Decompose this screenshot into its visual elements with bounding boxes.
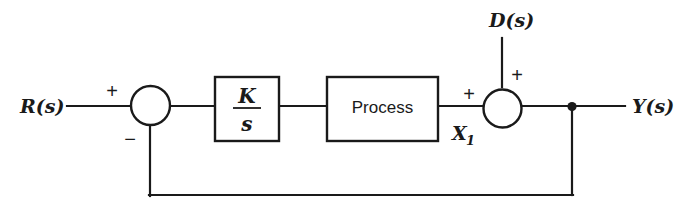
sign-error-junction-negative: − [124, 128, 136, 150]
summing-junction-disturbance [484, 90, 522, 128]
sign-error-junction-positive: + [106, 80, 118, 102]
label-disturbance-input: D(s) [488, 9, 534, 31]
sign-disturbance-junction-positive-left: + [463, 83, 475, 105]
feedback-takeoff-node [567, 102, 576, 111]
block-diagram-canvas: K s Process R(s) D(s) Y(s) X 1 + − + + [0, 0, 695, 209]
gain-denominator-label: s [240, 112, 252, 136]
sign-disturbance-junction-positive-top: + [511, 64, 523, 86]
label-output: Y(s) [632, 95, 674, 117]
gain-numerator-label: K [237, 84, 257, 108]
label-intermediate-signal-subscript: 1 [466, 133, 475, 148]
control-system-block-diagram: K s Process R(s) D(s) Y(s) X 1 + − + + [0, 0, 695, 209]
process-block-label: Process [352, 98, 413, 117]
label-reference-input: R(s) [19, 95, 64, 117]
summing-junction-error [131, 86, 170, 125]
